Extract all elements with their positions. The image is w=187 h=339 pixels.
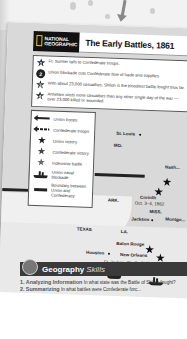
label-baton-rouge: Baton Rouge bbox=[116, 241, 144, 247]
legend-item: Boundary between Union and Confederacy bbox=[32, 182, 89, 199]
indecisive-battle-star-icon bbox=[33, 158, 49, 167]
skills-title-italic: Skills bbox=[86, 265, 105, 274]
decorative-blot bbox=[70, 2, 76, 10]
naval-blockade-ship-icon bbox=[33, 170, 49, 179]
legend-item: Confederate troops bbox=[34, 125, 91, 135]
event-3-star-icon: 3 bbox=[36, 80, 45, 89]
skills-questions: 1. Analyzing Information In what state w… bbox=[20, 279, 187, 293]
boundary-line bbox=[95, 173, 145, 177]
arrow-icon bbox=[120, 0, 126, 18]
label-st-louis: St. Louis bbox=[116, 131, 135, 137]
decorative-blot bbox=[150, 8, 155, 14]
label-montgomery: Montgo... bbox=[165, 217, 185, 223]
yellow-frame-icon bbox=[36, 35, 42, 46]
legend-label: Confederate troops bbox=[53, 127, 89, 133]
union-victory-star-icon bbox=[34, 136, 50, 145]
legend-label: Union victory bbox=[53, 138, 77, 144]
confederate-troops-arrow-icon bbox=[34, 125, 50, 134]
skills-title: Geography bbox=[42, 265, 84, 274]
legend-label: Union naval blockade bbox=[52, 170, 90, 181]
legend-label: Indecisive battle bbox=[52, 160, 82, 166]
battle-star-icon bbox=[162, 177, 171, 186]
label-arkansas: ARK. bbox=[108, 198, 119, 203]
label-houston: Houston bbox=[86, 250, 104, 256]
legend-item: Union troops bbox=[35, 114, 92, 124]
legend-item: Confederate victory bbox=[33, 147, 90, 157]
event-1-star-icon: 1 bbox=[36, 58, 45, 67]
boundary-line-icon bbox=[32, 185, 48, 194]
legend-item: Indecisive battle bbox=[33, 158, 90, 168]
city-dot bbox=[139, 134, 141, 136]
union-troops-arrow-icon bbox=[35, 114, 51, 123]
logo-line-2: GEOGRAPHIC bbox=[44, 41, 77, 47]
globe-badge-icon bbox=[22, 259, 38, 275]
question-heading: Analyzing Information bbox=[26, 279, 83, 285]
label-corinth: Corinth bbox=[140, 195, 156, 201]
label-nashville: Nash... bbox=[165, 165, 180, 171]
question-text: In what state was the Battle of Shiloh f… bbox=[84, 280, 176, 285]
events-box: 1 Ft. Sumter falls to Confederate troops… bbox=[31, 55, 187, 113]
question-item: 1. Analyzing Information In what state w… bbox=[20, 279, 187, 286]
legend-item: Union victory bbox=[34, 136, 91, 146]
event-4-star-icon: 4 bbox=[35, 91, 44, 100]
question-item: 2. Summarizing In what battles were Conf… bbox=[20, 286, 187, 293]
event-text: Antietam costs more casualties than any … bbox=[47, 91, 187, 106]
legend-label: Confederate victory bbox=[52, 149, 88, 155]
question-heading: Summarizing bbox=[26, 286, 60, 292]
national-geographic-logo: NATIONAL GEOGRAPHIC bbox=[33, 30, 80, 52]
event-text: Ft. Sumter falls to Confederate troops. bbox=[49, 58, 120, 65]
decorative-blot bbox=[105, 14, 110, 19]
geography-skills-header: Geography Skills bbox=[20, 262, 187, 276]
map-title: The Early Battles, 1861 bbox=[85, 37, 174, 50]
label-jackson: Jackson bbox=[131, 216, 149, 222]
legend-item: Union naval blockade bbox=[33, 169, 90, 181]
label-mississippi: MISS. bbox=[149, 209, 161, 214]
city-dot bbox=[151, 219, 153, 221]
decorative-blot bbox=[88, 0, 93, 6]
legend-label: Union troops bbox=[54, 116, 78, 122]
boundary-line bbox=[2, 188, 30, 191]
label-corinth-date: Oct. 3–4, 1862 bbox=[135, 201, 165, 207]
map-legend: Union troops Confederate troops Union vi… bbox=[28, 110, 96, 208]
question-number: 2. bbox=[20, 286, 25, 292]
label-texas: TEXAS bbox=[77, 227, 92, 233]
label-new-orleans: New Orleans bbox=[120, 252, 147, 258]
legend-label: Boundary between Union and Confederacy bbox=[51, 183, 90, 199]
label-louisiana: LA. bbox=[121, 229, 128, 234]
confederate-victory-star-icon bbox=[33, 147, 49, 156]
question-text: In what battles were Confederate forc... bbox=[61, 287, 141, 292]
event-2-circle-icon: 2 bbox=[36, 69, 45, 78]
city-dot bbox=[108, 253, 110, 255]
question-number: 1. bbox=[20, 279, 25, 285]
label-missouri: MO. bbox=[114, 143, 123, 148]
